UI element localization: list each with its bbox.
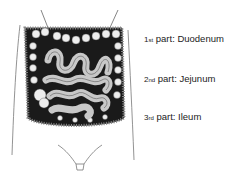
label-text: part: Jejunum — [155, 73, 215, 84]
anatomy-figure — [0, 0, 140, 174]
label-jejunum: 2nd part: Jejunum — [144, 73, 215, 84]
label-ileum: 3rd part: Ileum — [144, 111, 201, 122]
label-duodenum: 1st part: Duodenum — [144, 33, 224, 44]
label-text: part: Duodenum — [153, 33, 224, 44]
label-text: part: Ileum — [154, 111, 202, 122]
intestine-illustration — [0, 0, 140, 174]
